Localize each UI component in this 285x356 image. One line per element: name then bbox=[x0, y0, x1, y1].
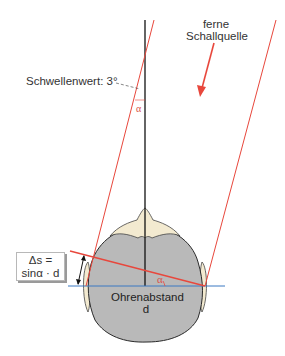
alpha-label-bottom: α bbox=[157, 274, 163, 286]
ear-distance-label: Ohrenabstand d bbox=[111, 291, 181, 315]
sound-direction-arrow bbox=[197, 43, 214, 97]
threshold-label: Schwellenwert: 3° bbox=[26, 75, 118, 87]
sound-source-label: ferne Schallquelle bbox=[186, 18, 246, 42]
sound-source-label-line1: ferne bbox=[186, 18, 246, 30]
formula-line1: Δs = bbox=[17, 254, 64, 267]
ear-distance-label-line1: Ohrenabstand bbox=[111, 291, 181, 303]
threshold-leader-line bbox=[116, 83, 140, 89]
ear-distance-label-line2: d bbox=[111, 303, 181, 315]
sound-source-label-line2: Schallquelle bbox=[186, 30, 246, 42]
alpha-label-top: α bbox=[136, 104, 141, 115]
formula-line2: sinα · d bbox=[17, 267, 64, 280]
sound-ray-right bbox=[205, 20, 276, 286]
formula-box: Δs = sinα · d bbox=[16, 252, 65, 281]
